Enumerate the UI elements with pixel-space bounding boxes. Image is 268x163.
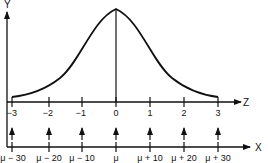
x-tick-label: μ − 10	[69, 153, 94, 163]
z-tick-label: 3	[215, 108, 220, 118]
x-axis: X μ − 30 μ − 20 μ − 10 μ μ + 10 μ + 20 μ…	[0, 142, 262, 163]
x-tick-label: μ − 30	[0, 153, 25, 163]
z-tick-label: 2	[181, 108, 186, 118]
z-tick-label: −1	[76, 108, 86, 118]
bell-curve	[12, 9, 218, 97]
x-axis-label: X	[255, 142, 262, 153]
x-tick-label: μ	[113, 153, 118, 163]
z-axis-label: Z	[243, 97, 249, 108]
x-tick-label: μ + 20	[171, 153, 196, 163]
x-tick-label: μ + 30	[205, 153, 230, 163]
z-tick-label: −3	[7, 108, 17, 118]
x-tick-label: μ + 10	[137, 153, 162, 163]
y-axis: Y	[4, 0, 11, 147]
mapping-arrows	[12, 128, 218, 140]
y-axis-label: Y	[4, 0, 11, 10]
z-tick-label: 0	[113, 108, 118, 118]
z-tick-label: −2	[43, 108, 53, 118]
normal-curve-diagram: Y Z −3 −2 −1 0 1 2 3	[0, 0, 268, 163]
z-tick-label: 1	[147, 108, 152, 118]
z-axis: Z −3 −2 −1 0 1 2 3	[7, 97, 249, 118]
x-tick-label: μ − 20	[36, 153, 61, 163]
